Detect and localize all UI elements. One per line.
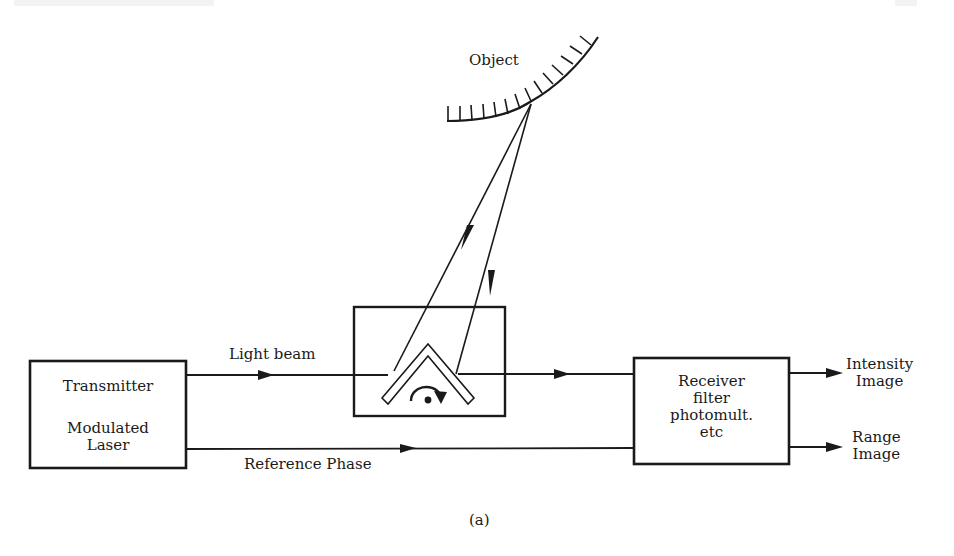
range-line2: Image [852, 446, 901, 463]
intensity-line2: Image [846, 373, 913, 390]
light-beam-label: Light beam [229, 346, 315, 363]
reference-phase-label: Reference Phase [244, 456, 372, 473]
diagram-canvas [0, 0, 954, 556]
range-image-label: Range Image [852, 429, 901, 463]
receiver-line3: photomult. [634, 407, 789, 424]
intensity-line1: Intensity [846, 356, 913, 373]
receiver-line4: etc [634, 424, 789, 441]
transmitter-line2: Modulated [30, 420, 186, 437]
receiver-text: Receiver filter photomult. etc [634, 373, 789, 441]
figure-caption: (a) [469, 512, 490, 529]
transmitter-line3: Laser [30, 437, 186, 454]
transmitter-text: Transmitter Modulated Laser [30, 378, 186, 454]
intensity-image-label: Intensity Image [846, 356, 913, 390]
receiver-line2: filter [634, 390, 789, 407]
receiver-title: Receiver [634, 373, 789, 390]
reference-phase-line [186, 444, 634, 453]
range-line1: Range [852, 429, 901, 446]
transmitter-title: Transmitter [30, 378, 186, 395]
output-arrows [789, 368, 843, 452]
rotation-arrow-icon [411, 387, 447, 404]
object-label: Object [469, 52, 519, 69]
object-surface [447, 36, 598, 121]
object-hatching [448, 36, 591, 121]
arrow-down-icon [488, 270, 495, 296]
beam-rays [394, 104, 531, 374]
